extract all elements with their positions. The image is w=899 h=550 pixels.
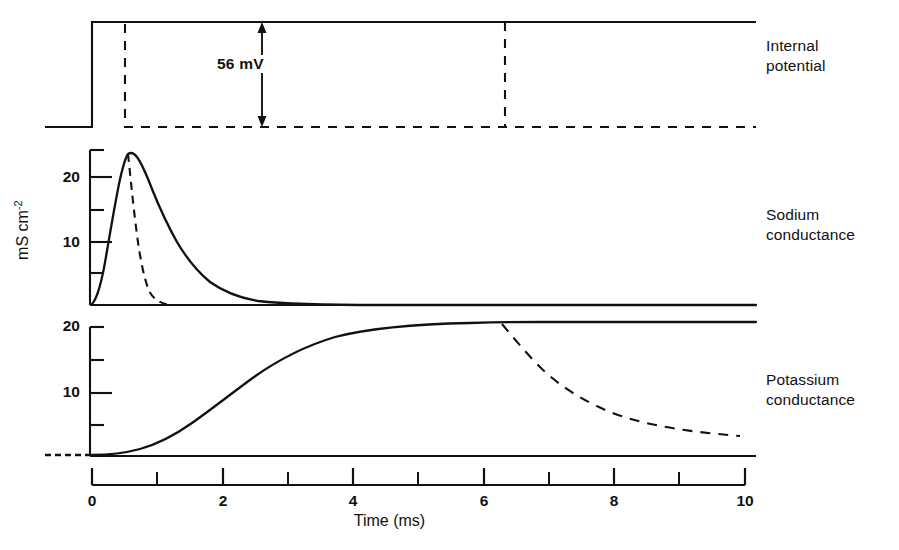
- trace-potassium-dashed: [502, 324, 740, 436]
- x-axis: [92, 468, 745, 485]
- voltage-annotation-label: 56 mV: [214, 55, 267, 73]
- xtick-label-8: 8: [594, 492, 634, 510]
- sodium-y-ticks: [90, 150, 112, 273]
- hodgkin-huxley-conductance-plot: [0, 0, 899, 550]
- panel-sodium-conductance: [90, 150, 756, 305]
- voltage-arrow: [258, 22, 267, 127]
- y-axis-title-text: mS cm: [14, 210, 31, 260]
- y-axis-title: mS cm-2: [12, 180, 32, 280]
- xtick-label-2: 2: [203, 492, 243, 510]
- trace-sodium-dashed: [128, 154, 208, 305]
- potassium-ytick-label-20: 20: [36, 317, 80, 335]
- trace-internal-potential-solid: [45, 22, 756, 127]
- panel-internal-potential: [45, 22, 756, 127]
- x-axis-title-text: Time (ms): [354, 512, 425, 529]
- xtick-label-0: 0: [72, 492, 112, 510]
- xtick-label-6: 6: [464, 492, 504, 510]
- potassium-ytick-label-10: 10: [36, 383, 80, 401]
- y-axis-title-exponent: -2: [12, 200, 24, 210]
- panel-potassium-conductance: [45, 322, 756, 456]
- figure-container: Internal potential Sodium conductance Po…: [0, 0, 899, 550]
- potassium-y-ticks: [90, 327, 112, 425]
- sodium-ytick-label-10: 10: [36, 233, 80, 251]
- x-axis-title: Time (ms): [0, 512, 899, 530]
- panel-label-potassium-conductance: Potassium conductance: [766, 370, 855, 410]
- trace-internal-potential-dashed: [125, 24, 756, 127]
- xtick-label-4: 4: [333, 492, 373, 510]
- trace-sodium-solid: [92, 153, 756, 305]
- panel-label-sodium-conductance: Sodium conductance: [766, 205, 855, 245]
- x-axis-minor-ticks: [157, 472, 679, 485]
- panel-label-internal-potential: Internal potential: [766, 36, 826, 76]
- xtick-label-10: 10: [725, 492, 765, 510]
- sodium-ytick-label-20: 20: [36, 168, 80, 186]
- trace-potassium-solid: [92, 322, 756, 455]
